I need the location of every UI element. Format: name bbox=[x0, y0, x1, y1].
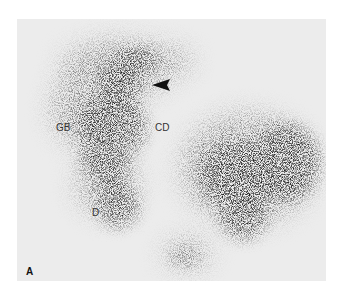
label-gb: GB bbox=[56, 123, 70, 133]
label-d: D bbox=[92, 208, 99, 218]
panel-label: A bbox=[26, 267, 33, 277]
label-cd: CD bbox=[155, 123, 169, 133]
scan-image bbox=[17, 19, 326, 281]
scintigraphy-image-panel: GB CD D A bbox=[17, 19, 326, 281]
